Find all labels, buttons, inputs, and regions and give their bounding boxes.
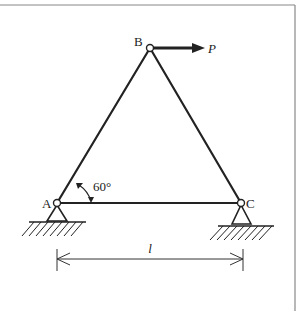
members (57, 48, 241, 203)
joint-a-icon (54, 200, 61, 207)
pin-support-a-icon (22, 205, 86, 236)
joint-b-icon (147, 45, 154, 52)
diagram-canvas: B P A C 60° l (0, 0, 308, 313)
dimension-label-l: l (148, 241, 152, 256)
node-label-a: A (42, 196, 52, 211)
member-bc (150, 48, 241, 203)
joint-c-icon (238, 200, 245, 207)
node-label-b: B (134, 34, 143, 49)
angle-arc-icon (76, 183, 94, 203)
load-label-p: P (207, 41, 216, 56)
joints (54, 45, 245, 207)
truss-diagram: B P A C 60° l (0, 0, 308, 313)
node-label-c: C (246, 196, 255, 211)
load-arrow-icon (153, 43, 205, 53)
pin-support-c-icon (210, 205, 274, 240)
angle-label: 60° (93, 179, 111, 194)
